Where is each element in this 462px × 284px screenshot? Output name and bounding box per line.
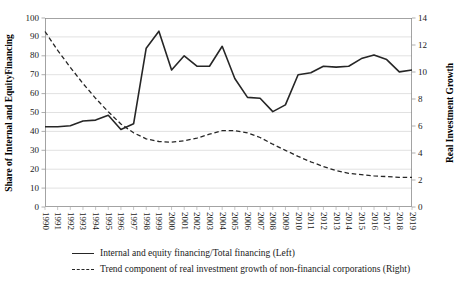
y-axis-tick-label: 40 [9, 126, 39, 137]
legend: Internal and equity financing/Total fina… [72, 245, 410, 277]
x-axis-tick-label: 2016 [370, 212, 379, 230]
y2-axis-tick-label: 14 [418, 13, 448, 24]
x-axis-tick-label: 1992 [66, 212, 75, 230]
y-axis-tick-label: 100 [9, 13, 39, 24]
y-axis-tick-label: 10 [9, 183, 39, 194]
x-axis-tick-label: 2007 [256, 212, 265, 230]
x-axis-tick-label: 1999 [154, 212, 163, 230]
y2-axis-tick-label: 4 [418, 148, 448, 159]
y2-axis-tick-label: 0 [418, 202, 448, 213]
x-axis-tick-label: 1991 [53, 212, 62, 230]
y-axis-tick-label: 90 [9, 31, 39, 42]
y-axis-tick-label: 30 [9, 145, 39, 156]
x-axis-tick-label: 2006 [243, 212, 252, 230]
x-axis-tick-label: 2013 [332, 212, 341, 230]
x-axis-tick-label: 1998 [142, 212, 151, 230]
legend-item-solid: Internal and equity financing/Total fina… [72, 245, 410, 261]
x-axis-tick-label: 2017 [382, 212, 391, 230]
x-axis-tick-label: 1995 [104, 212, 113, 230]
legend-item-dashed: Trend component of real investment growt… [72, 261, 410, 277]
x-axis-tick-label: 2004 [218, 212, 227, 230]
dashed-series-line [45, 32, 412, 178]
legend-label-solid: Internal and equity financing/Total fina… [100, 247, 295, 259]
x-axis-tick-label: 2015 [357, 212, 366, 230]
x-axis-tick-label: 1997 [129, 212, 138, 230]
dashed-line-sample-icon [72, 269, 94, 270]
y-axis-tick-label: 20 [9, 164, 39, 175]
x-axis-tick-label: 2010 [294, 212, 303, 230]
x-axis-tick-label: 1994 [91, 212, 100, 230]
x-axis-tick-label: 2005 [230, 212, 239, 230]
y2-axis-tick-label: 10 [418, 67, 448, 78]
y-axis-tick-label: 50 [9, 107, 39, 118]
x-axis-tick-label: 2018 [395, 212, 404, 230]
x-axis-tick-label: 2000 [167, 212, 176, 230]
x-axis-tick-label: 1990 [41, 212, 50, 230]
plot-area [45, 18, 412, 207]
y2-axis-tick-label: 6 [418, 121, 448, 132]
x-axis-tick-label: 2014 [344, 212, 353, 230]
y2-axis-tick-label: 8 [418, 94, 448, 105]
x-axis-tick-label: 1993 [78, 212, 87, 230]
y-axis-tick-label: 70 [9, 69, 39, 80]
solid-series-line [45, 31, 412, 129]
y2-axis-tick-label: 12 [418, 40, 448, 51]
solid-line-sample-icon [72, 253, 94, 254]
x-axis-tick-label: 2009 [281, 212, 290, 230]
chart-figure: Share of Internal and EquityFinancing Re… [0, 0, 462, 284]
x-axis-tick-label: 2003 [205, 212, 214, 230]
x-axis-tick-label: 2002 [192, 212, 201, 230]
plot-area-wrapper [45, 18, 412, 207]
y-axis-tick-label: 60 [9, 88, 39, 99]
y-axis-tick-label: 0 [9, 202, 39, 213]
x-axis-tick-label: 2019 [408, 212, 417, 230]
x-axis-tick-label: 2001 [180, 212, 189, 230]
x-axis-tick-label: 2008 [268, 212, 277, 230]
y-axis-tick-label: 80 [9, 50, 39, 61]
y2-axis-tick-label: 2 [418, 175, 448, 186]
legend-label-dashed: Trend component of real investment growt… [100, 263, 410, 275]
x-axis-tick-label: 1996 [116, 212, 125, 230]
x-axis-tick-label: 2012 [319, 212, 328, 230]
x-axis-tick-label: 2011 [306, 212, 315, 230]
